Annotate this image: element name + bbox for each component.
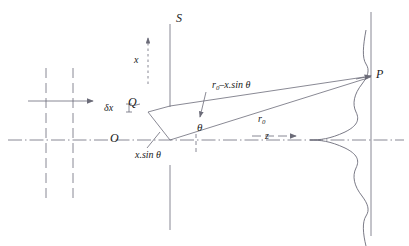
diffraction-diagram: S x Q δx O x.sin θ θ r0–x.sin θ r0 z P: [0, 0, 409, 246]
label-element-width: δx: [104, 103, 113, 113]
path-difference-leg: [148, 112, 170, 140]
ray-upper-QP: [170, 76, 371, 106]
label-angle: θ: [197, 122, 202, 133]
label-ray-lower: r0: [258, 114, 265, 125]
intensity-profile-curve: [310, 30, 368, 246]
label-path-difference: x.sin θ: [135, 150, 161, 160]
label-ray-lower-sub: 0: [262, 118, 265, 125]
label-ray-upper: r0–x.sin θ: [212, 80, 250, 91]
perpendicular-tick: [200, 92, 206, 117]
diagram-canvas: [0, 0, 409, 246]
label-ray-upper-rest: –x.sin θ: [219, 79, 250, 90]
label-optic-axis: z: [265, 131, 269, 141]
label-element-top: Q: [128, 96, 137, 108]
label-source-plane: S: [176, 12, 182, 24]
path-difference-base: [148, 106, 170, 112]
label-height-axis: x: [134, 55, 138, 65]
label-observation-point: P: [376, 68, 383, 80]
label-origin: O: [110, 132, 119, 144]
